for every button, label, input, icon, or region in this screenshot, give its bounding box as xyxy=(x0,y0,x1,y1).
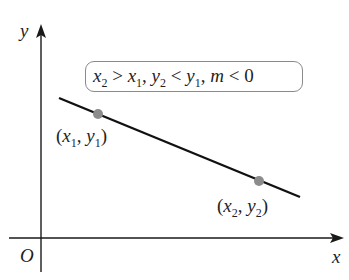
cond-sep2: , xyxy=(201,65,211,86)
cond-sep1: , xyxy=(142,65,152,86)
point-1-marker xyxy=(93,109,103,119)
x-axis-label: x xyxy=(332,247,340,266)
p1-y: y xyxy=(86,125,94,146)
p2-close: ) xyxy=(262,195,268,216)
cond-y2: y xyxy=(152,65,160,86)
p2-comma: , xyxy=(238,195,248,216)
point-1-label: (x1, y1) xyxy=(56,126,107,145)
cond-lt2: < xyxy=(224,65,244,86)
p2-y-sub: 2 xyxy=(256,206,262,220)
cond-x1: x xyxy=(128,65,136,86)
p2-y: y xyxy=(247,195,255,216)
cond-x1-sub: 1 xyxy=(136,76,142,90)
cond-zero: 0 xyxy=(244,65,254,86)
cond-lt: < xyxy=(166,65,186,86)
origin-label: O xyxy=(20,246,34,265)
p1-close: ) xyxy=(101,125,107,146)
p1-y-sub: 1 xyxy=(95,136,101,150)
cond-y1-sub: 1 xyxy=(195,76,201,90)
point-2-label: (x2, y2) xyxy=(217,196,268,215)
cond-y1: y xyxy=(186,65,194,86)
p1-comma: , xyxy=(77,125,87,146)
p2-x-sub: 2 xyxy=(232,206,238,220)
cond-y2-sub: 2 xyxy=(160,76,166,90)
cond-gt: > xyxy=(107,65,127,86)
y-axis-label: y xyxy=(20,21,28,40)
cond-x2-sub: 2 xyxy=(101,76,107,90)
condition-text: x2 > x1, y2 < y1, m < 0 xyxy=(93,66,254,85)
cond-m: m xyxy=(210,65,224,86)
p2-x: x xyxy=(223,195,231,216)
p1-x-sub: 1 xyxy=(71,136,77,150)
point-2-marker xyxy=(254,176,264,186)
p1-x: x xyxy=(62,125,70,146)
coordinate-diagram xyxy=(0,0,349,280)
